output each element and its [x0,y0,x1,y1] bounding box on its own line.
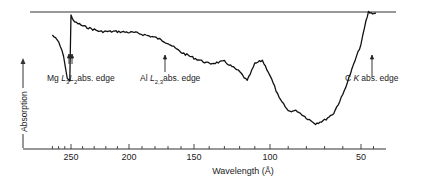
annotation-al: Al L2,3abs. edge [140,73,201,85]
svg-text:C Kabs. edge: C Kabs. edge [345,73,399,83]
svg-text:Al L2,3abs. edge: Al L2,3abs. edge [140,73,201,85]
x-tick-label: 200 [121,152,136,162]
x-axis-label: Wavelength (Å) [212,166,274,176]
x-tick-label: 100 [262,152,277,162]
absorption-chart: 25020015010050 Wavelength (Å) Absorption… [0,0,424,188]
y-axis-label: Absorption [19,91,29,132]
annotation-mg: Mg L3L2abs. edge [47,73,115,85]
annotation-c: C Kabs. edge [345,73,399,83]
svg-text:Mg L3L2abs. edge: Mg L3L2abs. edge [47,73,115,85]
x-tick-label: 250 [63,152,78,162]
x-axis-ticks: 25020015010050 [52,144,373,162]
arrow-up-icon [21,58,26,64]
absorption-curve [52,11,376,124]
x-tick-label: 50 [356,152,366,162]
x-tick-label: 150 [186,152,201,162]
